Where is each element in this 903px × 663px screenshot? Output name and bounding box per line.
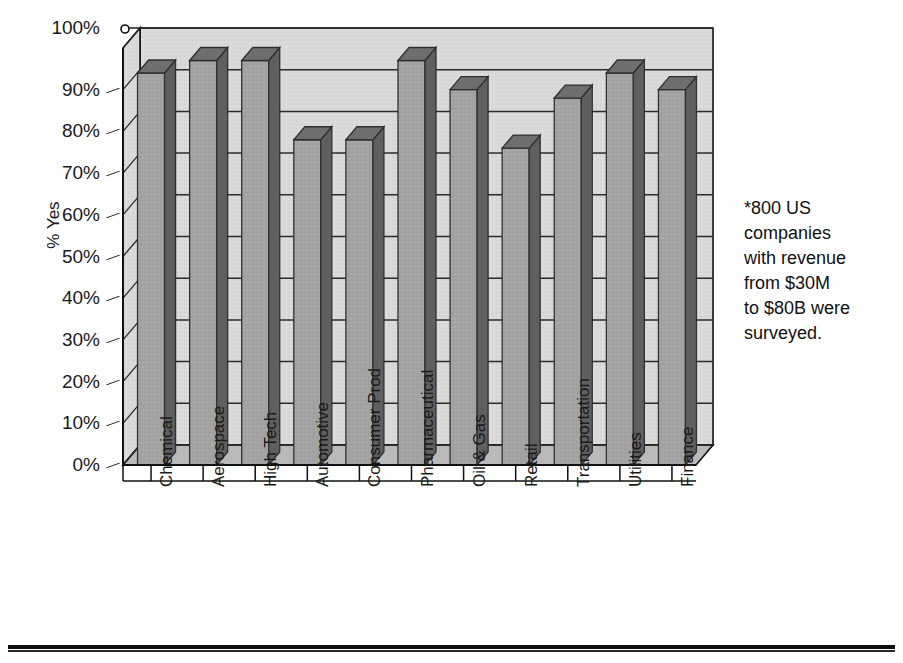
x-axis-label-oil-gas: Oil & Gas <box>471 414 488 487</box>
bar-front-high-tech <box>242 61 269 465</box>
bar-side-10 <box>685 77 696 465</box>
survey-note-line-5: to $80B were <box>744 296 894 321</box>
bar-front-aerospace <box>190 61 217 465</box>
x-axis-label-consumer-prod: Consumer Prod <box>366 368 383 487</box>
bar-side-6 <box>477 77 488 465</box>
y-axis-tick-label: 10% <box>26 413 100 432</box>
y-axis-tick-label: 20% <box>26 372 100 391</box>
bar-front-utilities <box>606 73 633 465</box>
footer-rule <box>8 645 895 649</box>
y-axis-tick-label: 0% <box>26 455 100 474</box>
top-value-marker <box>121 25 129 33</box>
x-axis-label-retail: Retail <box>523 444 540 487</box>
bar-front-finance <box>658 90 685 465</box>
x-axis-label-automotive: Automotive <box>314 402 331 487</box>
x-axis-label-high-tech: High Tech <box>262 412 279 487</box>
chart-figure: 0%10%20%30%40%50%60%70%80%90%100% % Yes … <box>0 0 903 663</box>
x-axis-label-utilities: Utilities <box>627 432 644 487</box>
bar-side-1 <box>217 48 228 465</box>
x-axis-label-pharmaceutical: Pharmaceutical <box>419 370 436 487</box>
y-axis-tick-label: 30% <box>26 330 100 349</box>
y-axis-tick-label: 90% <box>26 80 100 99</box>
y-axis-tick-label: 40% <box>26 288 100 307</box>
x-axis-label-transportation: Transportation <box>575 378 592 487</box>
survey-note-line-1: *800 US <box>744 196 894 221</box>
x-axis-label-aerospace: Aerospace <box>210 406 227 487</box>
survey-note-line-6: surveyed. <box>744 321 894 346</box>
footer-rule-secondary <box>8 650 895 652</box>
survey-note-line-4: from $30M <box>744 271 894 296</box>
bar-front-oil-gas <box>450 90 477 465</box>
bar-side-9 <box>633 60 644 465</box>
bar-side-0 <box>165 60 176 465</box>
x-axis-label-chemical: Chemical <box>158 416 175 487</box>
y-axis-title: % Yes <box>44 165 64 285</box>
x-axis-label-finance: Finance <box>679 427 696 487</box>
y-axis-tick-label: 80% <box>26 121 100 140</box>
survey-note-line-3: with revenue <box>744 246 894 271</box>
survey-note: *800 US companies with revenue from $30M… <box>744 196 894 346</box>
bar-side-7 <box>529 135 540 465</box>
bar-front-chemical <box>138 73 165 465</box>
survey-note-line-2: companies <box>744 221 894 246</box>
bar-side-2 <box>269 48 280 465</box>
y-axis-tick-label: 100% <box>26 18 100 37</box>
bar-front-retail <box>502 148 529 465</box>
